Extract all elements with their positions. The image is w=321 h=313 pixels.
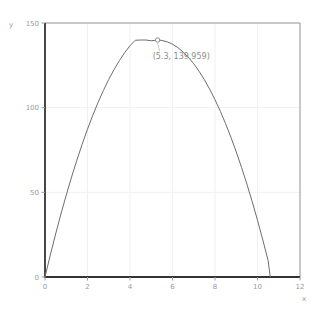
x-axis-title: x: [302, 295, 306, 303]
y-axis-title: y: [9, 21, 13, 29]
peak-marker-icon[interactable]: [155, 38, 159, 42]
x-tick-label: 10: [253, 283, 262, 291]
chart-container: 024681012 050100150 (5.3, 139.959) x y: [0, 0, 321, 313]
y-tick-label: 150: [26, 20, 39, 28]
x-tick-label: 6: [170, 283, 175, 291]
x-tick-label: 12: [296, 283, 305, 291]
x-tick-label: 2: [85, 283, 89, 291]
x-tick-label: 0: [43, 283, 47, 291]
y-tick-label: 100: [26, 104, 39, 112]
y-tick-label: 0: [35, 274, 39, 282]
plot-svg: 024681012 050100150 (5.3, 139.959) x y: [0, 0, 321, 313]
y-tick-label: 50: [30, 189, 39, 197]
x-tick-label: 8: [213, 283, 217, 291]
peak-annotation-label: (5.3, 139.959): [153, 52, 210, 61]
x-tick-label: 4: [128, 283, 133, 291]
